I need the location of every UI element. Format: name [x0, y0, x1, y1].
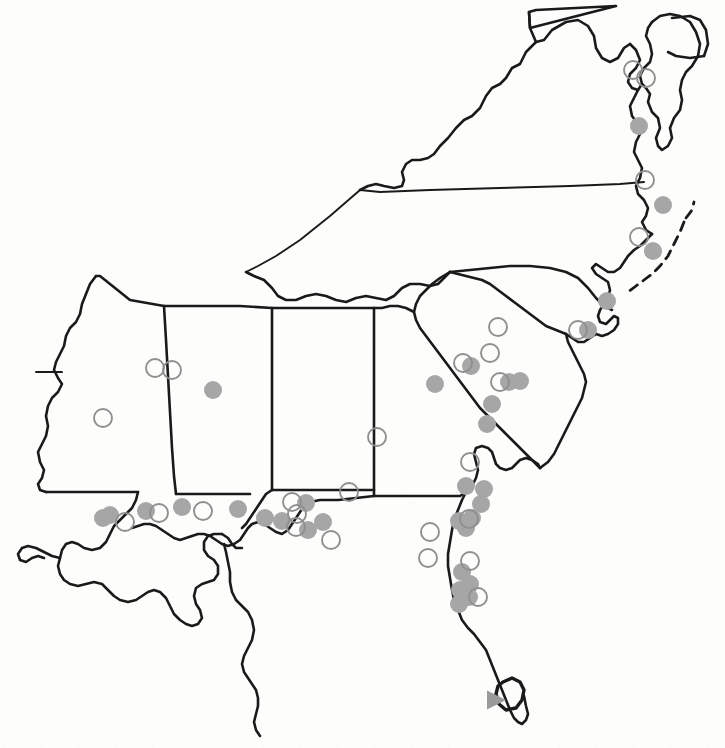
region-south-carolina	[414, 272, 586, 468]
map-marker-open	[419, 549, 437, 567]
map-marker-open	[94, 409, 112, 427]
map-marker-filled	[204, 381, 222, 399]
region-georgia	[374, 306, 540, 496]
map-marker-open	[481, 344, 499, 362]
map-marker-filled	[94, 509, 112, 527]
region-arkansas-louisiana	[18, 276, 242, 626]
map-marker-filled	[173, 498, 191, 516]
map-marker-filled	[256, 509, 274, 527]
map-marker-filled	[478, 415, 496, 433]
map-marker-open	[489, 318, 507, 336]
map-marker-open	[421, 523, 439, 541]
map-marker-filled	[137, 502, 155, 520]
map-marker-filled	[450, 595, 468, 613]
map-marker-filled	[426, 375, 444, 393]
map-marker-open	[368, 428, 386, 446]
distribution-map-figure	[0, 0, 725, 748]
map-marker-open	[322, 531, 340, 549]
map-marker-open	[194, 502, 212, 520]
map-marker-filled	[511, 372, 529, 390]
map-marker-filled	[598, 292, 616, 310]
map-canvas	[0, 0, 725, 748]
map-marker-open	[461, 552, 479, 570]
map-marker-filled	[457, 477, 475, 495]
map-marker-filled	[644, 242, 662, 260]
map-marker-filled	[299, 521, 317, 539]
region-north-carolina	[246, 190, 694, 342]
map-marker-filled	[483, 395, 501, 413]
region-virginia	[360, 6, 644, 192]
map-marker-filled	[630, 117, 648, 135]
map-marker-open	[630, 228, 648, 246]
map-marker-filled	[229, 500, 247, 518]
region-mississippi	[164, 306, 272, 494]
map-marker-filled	[654, 196, 672, 214]
map-marker-filled	[475, 480, 493, 498]
map-marker-filled	[579, 321, 597, 339]
map-marker-open	[163, 361, 181, 379]
map-marker-open	[146, 359, 164, 377]
